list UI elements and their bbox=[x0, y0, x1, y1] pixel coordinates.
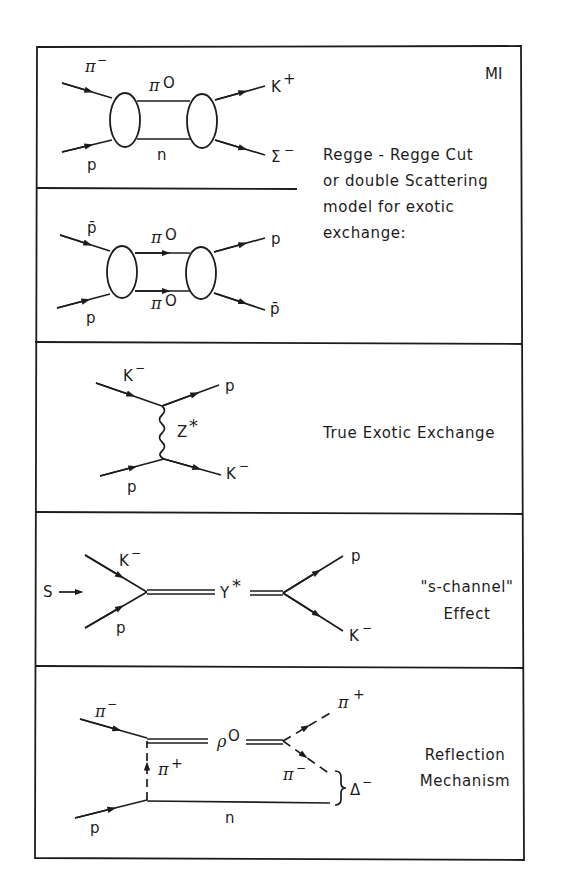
svg-text:O: O bbox=[165, 292, 177, 310]
outer-frame bbox=[35, 46, 524, 860]
svg-text:or double Scattering: or double Scattering bbox=[323, 172, 488, 190]
svg-text:O: O bbox=[165, 226, 177, 244]
panel-s-channel: S K − p Y * p K − "s-channel" Effect bbox=[43, 546, 513, 645]
panel-regge-cut-2: p̄ p π O π O p p̄ bbox=[57, 219, 281, 327]
svg-text:π: π bbox=[150, 228, 162, 247]
panel-true-exotic: K − p Z * p K − True Exotic Exchange bbox=[96, 361, 495, 496]
panel-regge-cut-1: π − p π O n K + Σ − bbox=[62, 53, 296, 174]
svg-text:−: − bbox=[97, 53, 107, 67]
svg-text:p: p bbox=[127, 478, 137, 496]
svg-text:−: − bbox=[131, 546, 141, 560]
svg-text:π: π bbox=[337, 693, 349, 712]
dashed-pi-plus-out bbox=[283, 712, 332, 741]
svg-text:Z: Z bbox=[177, 423, 187, 441]
svg-text:K: K bbox=[226, 465, 237, 483]
label-pbar: p̄ bbox=[87, 219, 97, 237]
svg-text:K: K bbox=[119, 552, 130, 570]
svg-text:O: O bbox=[228, 727, 240, 745]
svg-text:π: π bbox=[282, 765, 294, 784]
separator-2 bbox=[35, 512, 523, 514]
svg-text:π: π bbox=[150, 294, 162, 313]
svg-text:−: − bbox=[135, 361, 145, 375]
label-y-star: Y bbox=[219, 584, 230, 602]
label-rho0: ρ bbox=[216, 732, 227, 751]
separator-partial bbox=[36, 188, 297, 189]
svg-text:K: K bbox=[123, 367, 134, 385]
description-s-channel: "s-channel" bbox=[421, 578, 514, 596]
panel-reflection: π − p π + ρ O π + π − n Δ − Reflection M… bbox=[75, 686, 510, 837]
svg-text:+: + bbox=[353, 686, 365, 702]
label-delta-minus: Δ bbox=[350, 781, 361, 799]
svg-text:p̄: p̄ bbox=[270, 300, 280, 318]
svg-text:−: − bbox=[107, 697, 117, 711]
figure-label: MI bbox=[485, 65, 502, 83]
label-p: p bbox=[87, 156, 97, 174]
svg-text:*: * bbox=[232, 575, 241, 596]
svg-text:π: π bbox=[157, 760, 169, 779]
vertex-blob-left bbox=[107, 246, 137, 298]
svg-text:Regge - Regge Cut: Regge - Regge Cut bbox=[323, 146, 473, 164]
vertex-blob-left bbox=[110, 93, 140, 147]
svg-text:n: n bbox=[225, 809, 235, 827]
label-pi: π bbox=[84, 57, 96, 76]
svg-text:+: + bbox=[283, 70, 296, 88]
line-n-recoil bbox=[147, 801, 330, 803]
svg-text:−: − bbox=[362, 775, 372, 789]
label-p: p bbox=[86, 309, 96, 327]
label-sigma-minus: Σ bbox=[271, 148, 280, 166]
svg-text:−: − bbox=[362, 621, 372, 635]
label-pi0: π bbox=[148, 76, 160, 95]
brace-delta bbox=[335, 771, 346, 805]
description-reflection: Reflection bbox=[425, 746, 506, 764]
svg-text:−: − bbox=[284, 143, 294, 157]
vertex-blob-right bbox=[186, 247, 216, 299]
svg-text:Effect: Effect bbox=[444, 605, 491, 623]
svg-text:O: O bbox=[163, 74, 175, 92]
separator-3 bbox=[35, 666, 523, 668]
label-k-plus: K bbox=[271, 78, 282, 96]
description-true-exotic: True Exotic Exchange bbox=[322, 424, 495, 442]
svg-text:model for exotic: model for exotic bbox=[323, 198, 454, 216]
feynman-diagram-figure: MI π − p π O n K + Σ − Regge - Regge Cut… bbox=[0, 0, 566, 884]
svg-text:p: p bbox=[90, 819, 100, 837]
vertex-blob-right bbox=[187, 94, 217, 148]
svg-text:K: K bbox=[349, 627, 360, 645]
label-s: S bbox=[43, 583, 53, 601]
svg-text:p: p bbox=[351, 547, 361, 565]
wavy-z-star-propagator bbox=[160, 406, 165, 459]
svg-text:*: * bbox=[189, 415, 198, 436]
svg-text:π: π bbox=[94, 702, 106, 721]
svg-text:−: − bbox=[296, 761, 306, 775]
svg-text:p: p bbox=[225, 377, 235, 395]
separator-1 bbox=[35, 342, 523, 344]
shared-description: Regge - Regge Cut or double Scattering m… bbox=[323, 146, 488, 242]
svg-text:+: + bbox=[171, 755, 183, 771]
svg-text:p: p bbox=[116, 619, 126, 637]
svg-text:−: − bbox=[239, 459, 249, 473]
svg-text:p: p bbox=[271, 230, 281, 248]
label-n: n bbox=[157, 146, 167, 164]
svg-text:Mechanism: Mechanism bbox=[420, 772, 511, 790]
svg-text:exchange:: exchange: bbox=[323, 224, 406, 242]
